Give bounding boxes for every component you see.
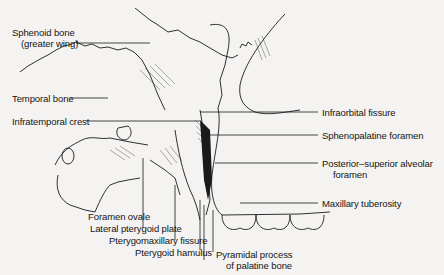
label-temporal-bone: Temporal bone <box>12 93 74 104</box>
label-infratemporal-crest: Infratemporal crest <box>12 116 89 127</box>
label-pterygoid-hamulus: Pterygoid hamulus <box>135 247 212 258</box>
label-pyramidal-process: Pyramidal process <box>216 249 292 260</box>
label-foramen-ovale: Foramen ovale <box>88 211 150 222</box>
label-lateral-pterygoid-plate: Lateral pterygoid plate <box>90 223 182 234</box>
label-maxillary-tuberosity: Maxillary tuberosity <box>322 198 401 209</box>
label-sphenoid-bone: Sphenoid bone <box>12 27 75 38</box>
label-infraorbital-fissure: Infraorbital fissure <box>322 107 396 118</box>
label-psa-foramen-cont: foramen <box>333 169 367 180</box>
label-pterygomaxillary-fissure: Pterygomaxillary fissure <box>109 235 207 246</box>
label-sphenoid-greater-wing: (greater wing) <box>21 38 78 49</box>
anatomy-figure: Sphenoid bone (greater wing) Temporal bo… <box>0 0 444 275</box>
label-psa-foramen: Posterior–superior alveolar <box>322 158 433 169</box>
label-sphenopalatine-foramen: Sphenopalatine foramen <box>322 130 423 141</box>
label-palatine-bone: of palatine bone <box>226 260 292 271</box>
